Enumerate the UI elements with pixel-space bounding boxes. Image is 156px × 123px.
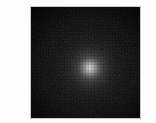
image-viewport: [0, 0, 156, 123]
glow-core: [75, 53, 105, 83]
intensity-image-panel[interactable]: [30, 6, 141, 119]
